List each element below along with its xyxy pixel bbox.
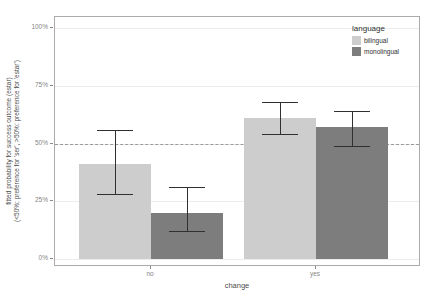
y-tick-label-0%: 0% (22, 254, 48, 262)
x-axis-title: change (54, 281, 420, 290)
gridline-75% (55, 86, 419, 87)
errorbar-line-yes-monolingual (352, 111, 353, 146)
y-axis-title-line1: fitted probability for success outcome (… (5, 16, 13, 266)
errorbar-cap-top-no-monolingual (169, 187, 205, 188)
errorbar-line-yes-bilingual (280, 102, 281, 134)
y-axis-title: fitted probability for success outcome (… (5, 16, 21, 266)
legend-swatch-monolingual-icon (352, 47, 361, 56)
y-tick-mark-25% (50, 200, 53, 201)
y-tick-mark-50% (50, 143, 53, 144)
errorbar-cap-bottom-yes-bilingual (262, 134, 298, 135)
x-tick-label-no: no (130, 270, 170, 278)
legend-label-monolingual: monolingual (364, 48, 399, 55)
y-tick-label-75%: 75% (22, 81, 48, 89)
bar-yes-bilingual (244, 118, 316, 259)
y-tick-label-50%: 50% (22, 139, 48, 147)
y-tick-mark-100% (50, 27, 53, 28)
legend-swatch-bilingual-icon (352, 36, 361, 45)
errorbar-cap-top-yes-bilingual (262, 102, 298, 103)
chart-figure: fitted probability for success outcome (… (0, 0, 429, 306)
x-tick-label-yes: yes (295, 270, 335, 278)
errorbar-cap-bottom-yes-monolingual (334, 146, 370, 147)
legend-item-bilingual: bilingual (352, 36, 399, 45)
errorbar-line-no-monolingual (187, 187, 188, 231)
x-tick-mark-no (150, 266, 151, 269)
y-tick-mark-75% (50, 85, 53, 86)
gridline-0% (55, 259, 419, 260)
legend-label-bilingual: bilingual (364, 37, 388, 44)
errorbar-cap-top-no-bilingual (97, 130, 133, 131)
legend-item-monolingual: monolingual (352, 47, 399, 56)
errorbar-cap-top-yes-monolingual (334, 111, 370, 112)
y-tick-mark-0% (50, 258, 53, 259)
legend-title: language (352, 24, 399, 33)
legend: language bilingual monolingual (352, 24, 399, 58)
errorbar-cap-bottom-no-monolingual (169, 231, 205, 232)
y-tick-label-100%: 100% (22, 23, 48, 31)
y-axis-title-line2: (<50%: preference for 'ser', >50%: prefe… (13, 16, 21, 266)
errorbar-line-no-bilingual (115, 130, 116, 195)
errorbar-cap-bottom-no-bilingual (97, 194, 133, 195)
y-tick-label-25%: 25% (22, 196, 48, 204)
bar-yes-monolingual (316, 127, 388, 259)
x-tick-mark-yes (315, 266, 316, 269)
